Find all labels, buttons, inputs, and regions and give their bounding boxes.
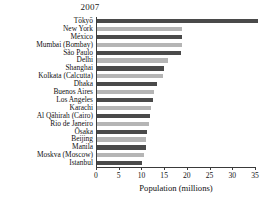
bar <box>96 27 182 31</box>
bar <box>96 161 142 165</box>
y-axis-line <box>96 17 97 167</box>
x-tick <box>255 167 256 170</box>
bar <box>96 66 164 70</box>
bar <box>96 98 153 102</box>
population-bar-chart: 2007 TōkyōNew YorkMéxicoMumbai (Bombay)S… <box>0 0 262 214</box>
x-tick-label: 15 <box>152 171 176 180</box>
bar <box>96 122 149 126</box>
bar <box>96 137 146 141</box>
x-tick <box>187 167 188 170</box>
bar <box>96 35 182 39</box>
x-tick <box>119 167 120 170</box>
x-tick-label: 5 <box>107 171 131 180</box>
x-tick <box>96 167 97 170</box>
bar <box>96 74 163 78</box>
chart-title: 2007 <box>0 2 180 12</box>
bar <box>96 90 154 94</box>
bar <box>96 43 182 47</box>
bar <box>96 19 258 23</box>
category-label: Istanbul <box>0 159 93 167</box>
bar <box>96 153 144 157</box>
x-tick <box>210 167 211 170</box>
x-tick-label: 0 <box>84 171 108 180</box>
x-tick-label: 20 <box>175 171 199 180</box>
bar <box>96 106 151 110</box>
x-tick-label: 10 <box>129 171 153 180</box>
plot-area <box>96 17 255 167</box>
bar <box>96 130 147 134</box>
bar <box>96 58 168 62</box>
x-tick-label: 25 <box>198 171 222 180</box>
x-tick <box>232 167 233 170</box>
bar <box>96 145 146 149</box>
category-axis-labels: TōkyōNew YorkMéxicoMumbai (Bombay)São Pa… <box>0 17 93 167</box>
bar <box>96 51 181 55</box>
x-tick <box>164 167 165 170</box>
x-tick-label: 30 <box>220 171 244 180</box>
x-axis-title: Population (millions) <box>96 183 256 193</box>
x-tick <box>141 167 142 170</box>
bar <box>96 114 150 118</box>
x-tick-label: 35 <box>243 171 262 180</box>
bar <box>96 82 157 86</box>
